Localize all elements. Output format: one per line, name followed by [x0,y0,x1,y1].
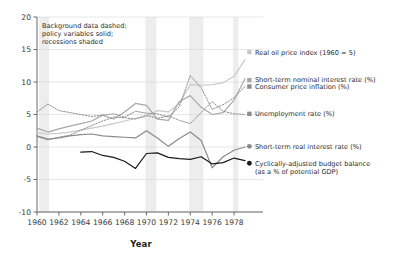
x-tick-label: 1972 [159,218,178,227]
legend-label-budget_balance: (as a % of potential GDP) [255,168,338,176]
legend-label-budget_balance: Cyclically-adjusted budget balance [255,160,370,168]
x-tick-label: 1964 [71,218,90,227]
x-tick-label: 1968 [115,218,134,227]
y-tick-label: 20 [21,13,31,22]
legend-marker-budget_balance [247,161,252,166]
y-tick-label: 10 [21,78,31,87]
x-tick-label: 1960 [27,218,46,227]
y-tick-label: -5 [23,175,31,184]
y-tick-label: -10 [19,208,32,217]
y-tick-label: 15 [21,45,31,54]
y-tick-label: 5 [26,110,31,119]
legend-label-real_rate: Short-term real interest rate (%) [255,143,362,151]
annotation-line: Background data dashed; [42,22,127,30]
annotation-line: recessions shaded [42,38,103,46]
x-tick-label: 1974 [181,218,200,227]
x-axis-title: Year [129,239,152,249]
legend-marker-nominal_rate [247,78,251,82]
legend-label-oil: Real oil price index (1960 = 5) [255,49,356,57]
y-tick-label: 0 [26,143,31,152]
legend-label-unemployment: Unemployment rate (%) [255,110,335,118]
legend-marker-oil [247,50,251,54]
x-tick-label: 1962 [49,218,68,227]
x-tick-label: 1970 [137,218,156,227]
chart-figure: -10-505101520 19601962196419661968197019… [0,0,407,275]
annotation-line: policy variables solid; [42,30,113,38]
legend-marker-real_rate [247,144,252,149]
x-tick-label: 1976 [202,218,221,227]
legend-label-cpi: Consumer price inflation (%) [255,83,350,91]
economic-indicators-line-chart: -10-505101520 19601962196419661968197019… [0,0,407,275]
x-tick-label: 1978 [224,218,243,227]
x-tick-label: 1966 [93,218,112,227]
legend-marker-unemployment [247,112,251,116]
legend-marker-cpi [247,84,251,88]
